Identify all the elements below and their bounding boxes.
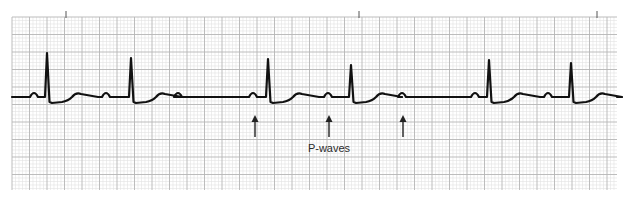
p-waves-label: P-waves bbox=[308, 142, 351, 154]
ecg-trace bbox=[12, 53, 622, 103]
grid-minor-lines bbox=[12, 17, 617, 190]
ecg-strip: P-waves bbox=[0, 0, 625, 200]
